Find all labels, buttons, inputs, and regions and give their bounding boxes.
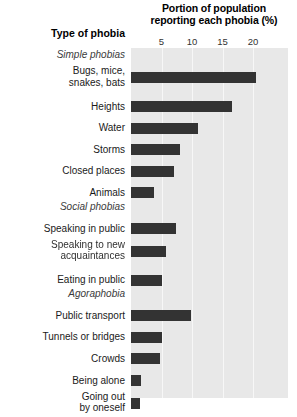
bar-heights [131, 101, 232, 112]
bar-public-transport [131, 310, 191, 321]
category-label-water: Water [0, 122, 125, 134]
x-tick-label-10: 10 [182, 36, 202, 47]
bar-speaking-in-public [131, 223, 176, 234]
axis-title-line-2: reporting each phobia (%) [150, 14, 277, 26]
chart-axis-title: Portion of population reporting each pho… [131, 2, 297, 26]
bar-animals [131, 187, 154, 198]
bar-storms [131, 144, 180, 155]
category-label-public-transport: Public transport [0, 310, 125, 322]
category-label-speaking-in-public: Speaking in public [0, 223, 125, 235]
x-tick-label-20: 20 [243, 36, 263, 47]
bar-closed-places [131, 166, 174, 177]
x-tick-label-5: 5 [152, 36, 172, 47]
category-label-animals: Animals [0, 187, 125, 199]
category-label-speaking-to-new: Speaking to newacquaintances [0, 239, 125, 262]
gridline-20 [253, 48, 254, 398]
bar-going-out [131, 398, 140, 409]
group-label-simple-phobias: Simple phobias [0, 49, 125, 61]
category-label-being-alone: Being alone [0, 375, 125, 387]
x-tick-label-15: 15 [213, 36, 233, 47]
category-label-bugs-mice: Bugs, mice,snakes, bats [0, 65, 125, 88]
phobia-bar-chart: Portion of population reporting each pho… [0, 0, 297, 417]
category-label-storms: Storms [0, 144, 125, 156]
category-label-eating-in-public: Eating in public [0, 274, 125, 286]
category-axis-header: Type of phobia [0, 27, 125, 39]
group-label-agoraphobia: Agoraphobia [0, 288, 125, 300]
category-label-closed-places: Closed places [0, 165, 125, 177]
category-label-tunnels-or-bridges: Tunnels or bridges [0, 331, 125, 343]
plot-area [131, 48, 288, 398]
category-label-heights: Heights [0, 101, 125, 113]
category-label-going-out: Going outby oneself [0, 391, 125, 414]
bar-eating-in-public [131, 275, 162, 286]
bar-tunnels-or-bridges [131, 332, 162, 343]
bar-being-alone [131, 375, 141, 386]
bar-crowds [131, 353, 160, 364]
bar-speaking-to-new [131, 246, 166, 257]
group-label-social-phobias: Social phobias [0, 201, 125, 213]
bar-bugs-mice [131, 72, 256, 83]
bar-water [131, 123, 198, 134]
axis-title-line-1: Portion of population [162, 2, 266, 14]
category-label-crowds: Crowds [0, 353, 125, 365]
